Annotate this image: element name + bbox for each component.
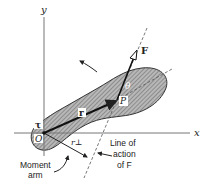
line-of-action-text-3: of F xyxy=(117,160,132,170)
line-of-action-text-1: Line of xyxy=(110,138,136,148)
x-axis-label: x xyxy=(194,127,200,138)
moment-arm-leader xyxy=(54,156,68,172)
theta-label: θ xyxy=(125,81,131,91)
line-of-action-text-2: action xyxy=(113,149,136,159)
force-arrowhead-icon xyxy=(130,50,137,60)
moment-arm-text-1: Moment xyxy=(20,160,51,170)
line-of-action-leader xyxy=(98,153,112,156)
y-axis-label: y xyxy=(40,4,47,15)
r-vector-label: r xyxy=(79,108,84,118)
moment-arm-symbol: r⊥ xyxy=(71,138,82,147)
point-p-label: P xyxy=(119,96,127,106)
moment-arm-text-2: arm xyxy=(28,170,43,180)
origin-label: O xyxy=(35,134,43,144)
force-label: F xyxy=(141,45,148,56)
rotation-arrow-icon xyxy=(80,61,97,72)
torque-label: τ xyxy=(35,120,41,130)
torque-diagram: y x τ O r P θ F r⊥ Moment arm Line of ac… xyxy=(0,0,210,184)
